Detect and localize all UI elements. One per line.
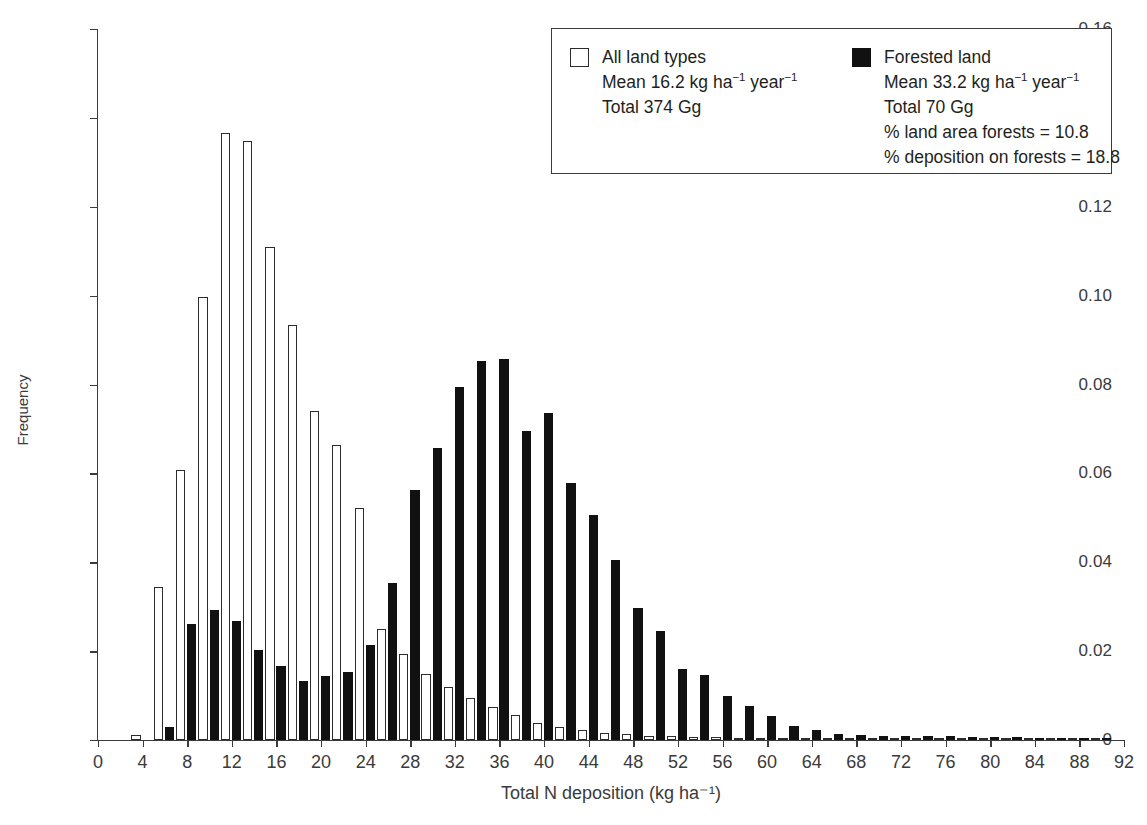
histogram-bar xyxy=(801,738,810,740)
x-axis-tick-label: 32 xyxy=(445,752,465,773)
histogram-bar xyxy=(711,737,720,740)
histogram-bar xyxy=(644,736,653,740)
x-axis-tick-label: 56 xyxy=(713,752,733,773)
histogram-bar xyxy=(778,738,787,740)
histogram-bar xyxy=(355,508,364,740)
x-axis-tick xyxy=(856,740,857,747)
histogram-bar xyxy=(254,650,263,740)
x-axis-tick-label: 8 xyxy=(182,752,192,773)
x-axis-tick-label: 36 xyxy=(489,752,509,773)
y-axis-tick xyxy=(90,118,98,119)
x-axis-tick-label: 16 xyxy=(266,752,286,773)
legend-swatch-open-square-icon xyxy=(570,48,589,67)
histogram-bar xyxy=(823,738,832,740)
histogram-bar xyxy=(689,737,698,740)
x-axis-tick xyxy=(143,740,144,747)
histogram-bar xyxy=(444,687,453,740)
histogram-bar xyxy=(544,413,553,740)
x-axis-tick xyxy=(499,740,500,747)
legend-line: Total 70 Gg xyxy=(884,95,1120,120)
histogram-bar xyxy=(723,696,732,740)
x-axis-tick xyxy=(1079,740,1080,747)
histogram-bar xyxy=(243,141,252,740)
x-axis-tick-label: 20 xyxy=(311,752,331,773)
histogram-bar xyxy=(1046,738,1055,740)
x-axis-tick xyxy=(455,740,456,747)
legend-column-all-land-types: All land typesMean 16.2 kg ha−1 year−1To… xyxy=(570,45,798,120)
x-axis-tick xyxy=(321,740,322,747)
x-axis-tick-label: 72 xyxy=(891,752,911,773)
histogram-bar xyxy=(388,583,397,740)
histogram-bar xyxy=(868,738,877,740)
y-axis-tick-label: 0 xyxy=(1102,730,1112,750)
histogram-bar xyxy=(600,733,609,740)
histogram-bar xyxy=(410,490,419,740)
x-axis-tick xyxy=(946,740,947,747)
x-axis-tick xyxy=(767,740,768,747)
x-axis-tick xyxy=(187,740,188,747)
y-axis-tick xyxy=(90,296,98,297)
y-axis-tick xyxy=(90,651,98,652)
x-axis-tick xyxy=(589,740,590,747)
x-axis-tick-label: 40 xyxy=(534,752,554,773)
histogram-bar xyxy=(789,726,798,740)
y-axis-label: Frequency xyxy=(14,375,31,446)
histogram-bar xyxy=(979,738,988,740)
x-axis-tick xyxy=(678,740,679,747)
x-axis-tick-label: 60 xyxy=(757,752,777,773)
histogram-bar xyxy=(734,738,743,740)
histogram-bar xyxy=(667,736,676,740)
legend-line: Forested land xyxy=(884,45,1120,70)
legend-line: % deposition on forests = 18.8 xyxy=(884,145,1120,170)
histogram-bar xyxy=(934,738,943,740)
x-axis-tick xyxy=(812,740,813,747)
histogram-bar xyxy=(812,730,821,740)
histogram-bar xyxy=(990,737,999,740)
x-axis-tick xyxy=(723,740,724,747)
x-axis-tick xyxy=(366,740,367,747)
x-axis-tick-label: 4 xyxy=(138,752,148,773)
x-axis-tick xyxy=(544,740,545,747)
histogram-bar xyxy=(176,470,185,740)
legend-text-block: Forested landMean 33.2 kg ha−1 year−1Tot… xyxy=(884,45,1120,170)
x-axis-tick xyxy=(990,740,991,747)
x-axis-tick xyxy=(633,740,634,747)
histogram-bar xyxy=(879,736,888,740)
histogram-bar xyxy=(399,654,408,740)
y-axis-tick-label: 0.08 xyxy=(1079,375,1113,395)
histogram-bar xyxy=(622,734,631,740)
histogram-bar xyxy=(511,715,520,740)
legend: All land typesMean 16.2 kg ha−1 year−1To… xyxy=(551,28,1112,174)
histogram-bar xyxy=(1001,738,1010,740)
histogram-bar xyxy=(221,133,230,740)
histogram-bar xyxy=(756,738,765,740)
histogram-bar xyxy=(377,629,386,740)
x-axis-tick-label: 64 xyxy=(802,752,822,773)
histogram-bar xyxy=(890,738,899,740)
histogram-bar xyxy=(901,736,910,740)
histogram-bar xyxy=(198,297,207,740)
x-axis-tick xyxy=(276,740,277,747)
histogram-bar xyxy=(265,247,274,740)
x-axis-tick-label: 80 xyxy=(980,752,1000,773)
histogram-bar xyxy=(466,698,475,740)
histogram-bar xyxy=(566,483,575,740)
x-axis-label: Total N deposition (kg ha⁻¹) xyxy=(501,782,721,804)
histogram-bar xyxy=(299,681,308,740)
histogram-bar xyxy=(1057,738,1066,740)
x-axis-line xyxy=(98,740,1125,741)
histogram-bar xyxy=(1091,738,1100,740)
histogram-bar xyxy=(343,672,352,740)
histogram-bar xyxy=(288,325,297,740)
histogram-bar xyxy=(946,736,955,740)
histogram-figure: 00.020.040.060.080.100.120.140.160481216… xyxy=(0,0,1147,825)
x-axis-tick-label: 84 xyxy=(1025,752,1045,773)
y-axis-tick-label: 0.12 xyxy=(1079,197,1113,217)
histogram-bar xyxy=(321,676,330,740)
histogram-bar xyxy=(767,716,776,740)
x-axis-tick-label: 12 xyxy=(222,752,242,773)
y-axis-tick-label: 0.06 xyxy=(1079,463,1113,483)
legend-line: Total 374 Gg xyxy=(602,95,798,120)
histogram-bar xyxy=(678,669,687,740)
legend-line: Mean 16.2 kg ha−1 year−1 xyxy=(602,70,798,95)
